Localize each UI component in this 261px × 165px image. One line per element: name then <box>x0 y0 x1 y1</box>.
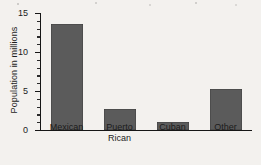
y-tick-major: 5 <box>35 91 40 92</box>
x-axis-label: Cuban <box>146 122 199 133</box>
y-tick-label: 15 <box>18 8 28 18</box>
y-tick-minor <box>37 114 40 115</box>
y-tick-minor <box>37 44 40 45</box>
y-tick-minor <box>37 107 40 108</box>
y-tick-minor <box>37 99 40 100</box>
y-tick-major: 10 <box>35 52 40 53</box>
y-tick-label: 5 <box>23 86 28 96</box>
y-tick-minor <box>37 60 40 61</box>
y-tick-minor <box>37 75 40 76</box>
y-tick-minor <box>37 29 40 30</box>
plot-area: 051015 <box>40 13 252 130</box>
scan-artifact <box>0 0 261 9</box>
y-axis-label: Population in millions <box>9 15 19 125</box>
x-axis-label: Other <box>199 122 252 133</box>
y-tick-minor <box>37 83 40 84</box>
y-tick-label: 0 <box>23 125 28 135</box>
y-tick-label: 10 <box>18 47 28 57</box>
y-tick-major: 15 <box>35 13 40 14</box>
x-axis-label: Mexican <box>40 122 93 133</box>
y-tick-minor <box>37 68 40 69</box>
y-tick-minor <box>37 36 40 37</box>
bar-chart-figure: Population in millions 051015 MexicanPue… <box>0 0 261 165</box>
bar <box>51 24 83 130</box>
y-tick-minor <box>37 21 40 22</box>
y-axis-line <box>40 13 41 131</box>
x-axis-label: Puerto Rican <box>93 122 146 143</box>
